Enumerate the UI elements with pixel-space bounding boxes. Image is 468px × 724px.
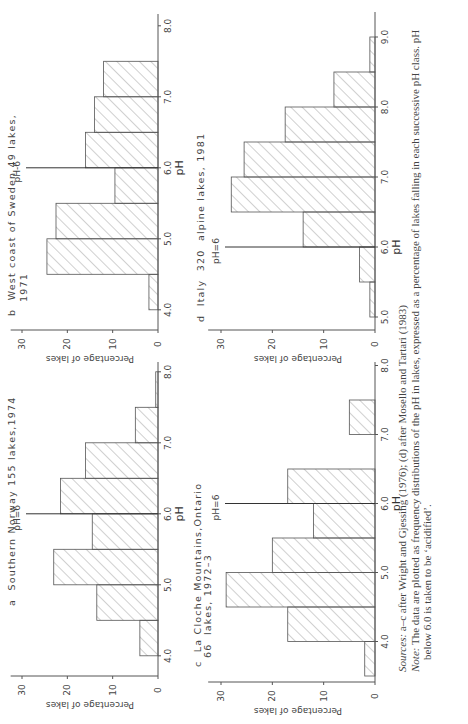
x-tick-label: 5.0: [380, 565, 390, 580]
figure-caption: Sources: a–c after Wright and Gjessing (…: [396, 12, 434, 672]
y-tick-label: 30: [17, 684, 27, 696]
y-axis-label: Percentage of lakes: [254, 354, 342, 364]
x-tick-label: 8.0: [380, 100, 390, 115]
note-text: The data are plotted as frequency distri…: [409, 30, 421, 645]
histogram-bar: [365, 642, 375, 677]
y-tick-label: 0: [153, 341, 163, 347]
histogram-bar: [97, 585, 158, 621]
histogram-bar: [303, 212, 375, 247]
x-tick-label: 6.0: [380, 240, 390, 255]
histogram-bar: [135, 407, 158, 443]
histogram-bar: [370, 37, 375, 72]
histogram-bar: [95, 97, 158, 133]
y-axis-label: Percentage of lakes: [46, 354, 134, 364]
histogram-bar: [56, 203, 158, 239]
caption-note-continued: below 6.0 is taken to be ‘acidified’.: [421, 12, 434, 672]
panel-a-chart: 0102030Percentage of lakes4.05.06.07.08.…: [0, 354, 190, 724]
y-tick-label: 20: [267, 338, 277, 350]
y-tick-label: 30: [216, 338, 226, 350]
panel-c-chart: 0102030Percentage of lakes4.05.06.07.08.…: [185, 354, 390, 724]
histogram-bar: [85, 132, 158, 168]
x-tick-label: 5.0: [380, 310, 390, 325]
x-tick-label: 4.0: [163, 648, 173, 663]
y-tick-label: 20: [62, 684, 72, 696]
panel-a-title: a Southern Norway 155 lakes,1974: [6, 396, 17, 606]
histogram-bar: [231, 177, 375, 212]
y-tick-label: 0: [153, 687, 163, 693]
x-tick-label: 6.0: [380, 496, 390, 511]
rotated-figure-page: 0102030Percentage of lakes4.05.06.07.08.…: [0, 0, 468, 724]
histogram-bar: [288, 469, 375, 504]
histogram-bar: [244, 142, 375, 177]
x-tick-label: 6.0: [163, 160, 173, 175]
histogram-bar: [285, 107, 375, 142]
x-tick-label: 8.0: [163, 18, 173, 33]
panel-b-chart: 0102030Percentage of lakes4.05.06.07.08.…: [0, 0, 190, 364]
histogram-bar: [272, 538, 375, 573]
ph6-annotation: pH=6: [211, 494, 221, 520]
x-tick-label: 8.0: [163, 364, 173, 379]
y-tick-label: 30: [17, 338, 27, 350]
x-tick-label: 7.0: [380, 170, 390, 185]
histogram-bar: [115, 168, 158, 204]
x-tick-label: 7.0: [163, 435, 173, 450]
caption-sources: Sources: a–c after Wright and Gjessing (…: [396, 12, 409, 672]
caption-note: Note: The data are plotted as frequency …: [409, 12, 422, 672]
x-tick-label: 4.0: [163, 302, 173, 317]
y-tick-label: 10: [108, 684, 118, 696]
histogram-bar: [149, 274, 158, 310]
x-tick-label: 7.0: [163, 89, 173, 104]
y-tick-label: 20: [267, 690, 277, 702]
histogram-bar: [140, 620, 158, 656]
histogram-bar: [334, 72, 375, 107]
y-tick-label: 10: [319, 338, 329, 350]
histogram-bar: [54, 549, 158, 585]
histogram-bar: [313, 504, 375, 539]
panel-b: 0102030Percentage of lakes4.05.06.07.08.…: [0, 0, 190, 364]
panel-b-title: b West coast of Sweden 49 lakes,: [6, 114, 17, 316]
histogram-bar: [349, 400, 375, 435]
panel-d-title: d Italy 320 alpine lakes, 1981: [195, 133, 206, 322]
x-tick-label: 6.0: [163, 506, 173, 521]
histogram-bar: [104, 61, 158, 97]
sources-text: a–c after Wright and Gjessing (1976); (d…: [396, 305, 408, 631]
sources-label: Sources:: [396, 634, 408, 672]
panel-a: 0102030Percentage of lakes4.05.06.07.08.…: [0, 354, 190, 724]
histogram-bar: [47, 239, 158, 275]
x-tick-label: 7.0: [380, 427, 390, 442]
note-label: Note:: [409, 648, 421, 672]
histogram-bar: [288, 607, 375, 642]
y-axis-label: Percentage of lakes: [46, 700, 134, 710]
y-tick-label: 30: [216, 690, 226, 702]
y-axis-label: Percentage of lakes: [254, 706, 342, 716]
histogram-bar: [61, 478, 158, 514]
histogram-bar: [370, 282, 375, 317]
panel-d: 0102030Percentage of lakes5.06.07.08.09.…: [185, 0, 390, 364]
histogram-bar: [360, 247, 375, 282]
histogram-bar: [85, 443, 158, 479]
y-tick-label: 10: [108, 338, 118, 350]
histogram-bar: [226, 573, 375, 608]
histogram-bar: [92, 514, 158, 550]
histogram-bar: [156, 372, 158, 408]
x-tick-label: 5.0: [163, 231, 173, 246]
panel-c-title-line2: 66 lakes, 1972–3: [202, 554, 213, 658]
y-tick-label: 0: [370, 693, 380, 699]
panel-b-title-line2: 1971: [18, 273, 29, 302]
panel-c: 0102030Percentage of lakes4.05.06.07.08.…: [185, 354, 390, 724]
y-tick-label: 0: [370, 341, 380, 347]
ph6-annotation: pH=6: [211, 238, 221, 264]
panel-d-chart: 0102030Percentage of lakes5.06.07.08.09.…: [185, 0, 390, 364]
y-tick-label: 20: [62, 338, 72, 350]
x-tick-label: 9.0: [380, 30, 390, 45]
x-tick-label: 5.0: [163, 577, 173, 592]
x-tick-label: 4.0: [380, 634, 390, 649]
y-tick-label: 10: [319, 690, 329, 702]
